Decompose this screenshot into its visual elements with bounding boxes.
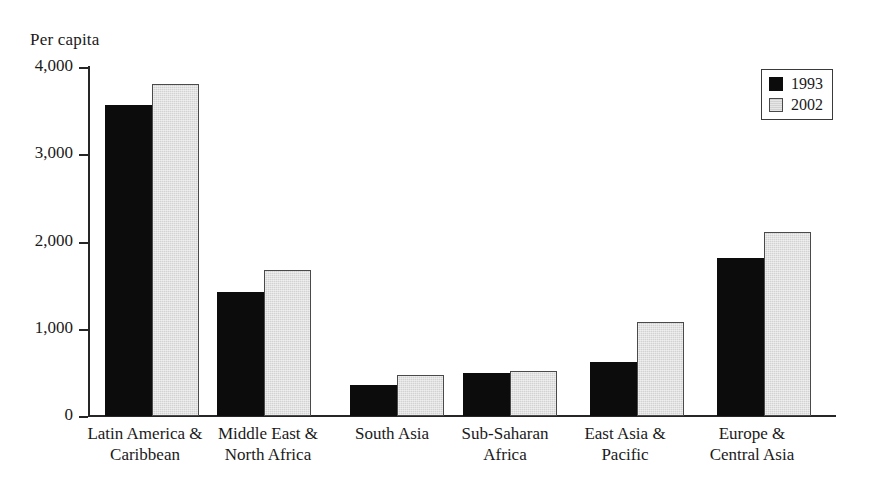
legend-item-2002: 2002 [769, 96, 823, 114]
legend-label-1993: 1993 [791, 76, 823, 92]
y-axis-tick-mark [79, 329, 88, 331]
y-axis-tick-mark [79, 242, 88, 244]
bar-group [350, 67, 444, 416]
bar-1993 [217, 292, 264, 416]
bar-2002 [397, 375, 444, 416]
bar-1993 [463, 373, 510, 416]
bar-chart: Per capita 01,0002,0003,0004,000 Latin A… [0, 0, 877, 494]
legend-swatch-1993-icon [769, 77, 783, 91]
x-axis-tick-label: Europe &Central Asia [652, 424, 852, 465]
bar-2002 [264, 270, 311, 416]
chart-legend: 1993 2002 [761, 69, 833, 120]
bar-2002 [152, 84, 199, 416]
bar-1993 [717, 258, 764, 416]
y-axis-tick-label: 2,000 [35, 231, 73, 251]
y-axis-tick-mark [79, 67, 88, 69]
legend-item-1993: 1993 [769, 75, 823, 93]
bar-1993 [105, 105, 152, 416]
legend-swatch-2002-icon [769, 98, 783, 112]
y-axis-tick-mark [79, 154, 88, 156]
y-axis-tick-label: 4,000 [35, 56, 73, 76]
y-axis-title: Per capita [30, 30, 100, 50]
bar-group [463, 67, 557, 416]
bar-1993 [350, 385, 397, 416]
y-axis-tick-label: 0 [65, 405, 74, 425]
bar-group [105, 67, 199, 416]
y-axis-tick-label: 3,000 [35, 143, 73, 163]
bar-group [217, 67, 311, 416]
bar-2002 [637, 322, 684, 416]
bar-2002 [764, 232, 811, 416]
bar-1993 [590, 362, 637, 416]
bar-2002 [510, 371, 557, 416]
legend-label-2002: 2002 [791, 97, 823, 113]
y-axis-tick-mark [79, 416, 88, 418]
bar-group [590, 67, 684, 416]
plot-area: 01,0002,0003,0004,000 [88, 67, 836, 416]
y-axis-tick-label: 1,000 [35, 318, 73, 338]
